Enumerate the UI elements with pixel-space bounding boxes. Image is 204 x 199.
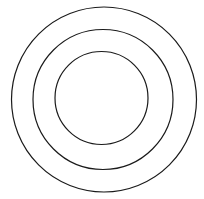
outer-circle xyxy=(12,7,197,192)
concentric-circles-diagram xyxy=(0,0,204,199)
middle-circle xyxy=(33,30,173,170)
inner-circle xyxy=(55,52,148,145)
